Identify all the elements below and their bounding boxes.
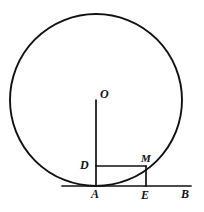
geometry-figure: O D M A E B bbox=[0, 0, 204, 212]
figure-canvas bbox=[0, 0, 204, 212]
point-label-M: M bbox=[141, 153, 151, 164]
point-label-B: B bbox=[181, 188, 189, 200]
point-label-A: A bbox=[91, 188, 99, 200]
point-label-D: D bbox=[80, 159, 89, 171]
point-label-E: E bbox=[141, 189, 149, 201]
point-label-O: O bbox=[100, 88, 109, 100]
